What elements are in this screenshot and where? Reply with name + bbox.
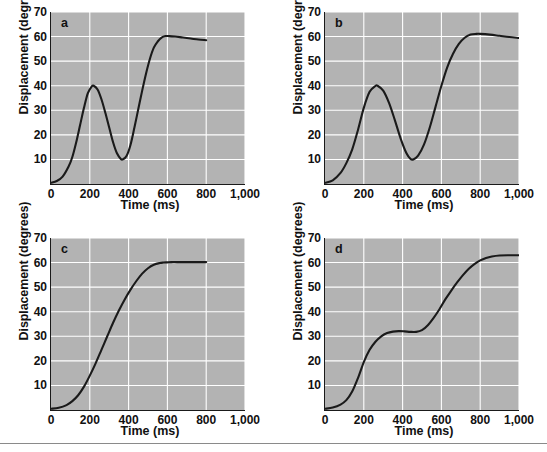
panel-b-x-axis-line [325,184,519,185]
panel-b-canvas [325,12,519,184]
y-tick-label: 10 [34,378,47,392]
y-tick-label: 60 [308,30,321,44]
panel-c-x-axis-line [51,410,245,411]
panel-a-x-axis-label: Time (ms) [50,198,250,212]
y-tick-label: 40 [308,305,321,319]
panel-d-x-axis-label: Time (ms) [324,424,524,438]
data-curve [325,34,519,183]
panel-a-plot-area: a 1020304050607002004006008001,000 [51,12,245,184]
y-tick-label: 20 [308,354,321,368]
figure-panel-grid: Displacement (degrees) a 102030405060700… [0,0,547,452]
y-tick-label: 30 [308,329,321,343]
y-tick-label: 40 [308,79,321,93]
y-tick-label: 50 [34,54,47,68]
y-tick-label: 70 [34,5,47,19]
panel-c-letter: c [61,242,68,256]
panel-d-plot-area: d 1020304050607002004006008001,000 [325,238,519,410]
panel-a-canvas [51,12,245,184]
panel-a-y-axis-label: Displacement (degrees) [17,0,31,115]
y-tick-label: 10 [308,152,321,166]
y-tick-label: 10 [34,152,47,166]
panel-d-canvas [325,238,519,410]
panel-b: Displacement (degrees) b 102030405060700… [274,0,547,226]
y-tick-label: 60 [34,30,47,44]
panel-a-x-axis-line [51,184,245,185]
panel-a-letter: a [61,16,68,30]
panel-b-y-axis-line [324,12,325,185]
y-tick-label: 70 [34,231,47,245]
y-tick-label: 20 [34,128,47,142]
panel-b-x-axis-label: Time (ms) [324,198,524,212]
panel-c-y-axis-line [50,238,51,411]
figure-bottom-divider [0,443,547,444]
y-tick-label: 70 [308,231,321,245]
y-tick-label: 30 [34,329,47,343]
panel-d-letter: d [335,242,343,256]
y-tick-label: 50 [308,280,321,294]
y-tick-label: 70 [308,5,321,19]
y-tick-label: 20 [34,354,47,368]
panel-c-plot-area: c 1020304050607002004006008001,000 [51,238,245,410]
y-tick-label: 60 [34,256,47,270]
panel-b-letter: b [335,16,343,30]
y-tick-label: 40 [34,79,47,93]
panel-c: Displacement (degrees) c 102030405060700… [0,226,273,452]
panel-d: Displacement (degrees) d 102030405060700… [274,226,547,452]
y-tick-label: 20 [308,128,321,142]
panel-a-y-axis-line [50,12,51,185]
y-tick-label: 50 [308,54,321,68]
panel-c-canvas [51,238,245,410]
panel-b-y-axis-label: Displacement (degrees) [291,0,305,115]
y-tick-label: 10 [308,378,321,392]
y-tick-label: 30 [308,103,321,117]
panel-d-y-axis-line [324,238,325,411]
panel-b-plot-area: b 1020304050607002004006008001,000 [325,12,519,184]
panel-c-y-axis-label: Displacement (degrees) [17,201,31,341]
panel-c-x-axis-label: Time (ms) [50,424,250,438]
y-tick-label: 30 [34,103,47,117]
y-tick-label: 40 [34,305,47,319]
y-tick-label: 50 [34,280,47,294]
panel-a: Displacement (degrees) a 102030405060700… [0,0,273,226]
y-tick-label: 60 [308,256,321,270]
panel-d-x-axis-line [325,410,519,411]
panel-d-y-axis-label: Displacement (degrees) [291,201,305,341]
